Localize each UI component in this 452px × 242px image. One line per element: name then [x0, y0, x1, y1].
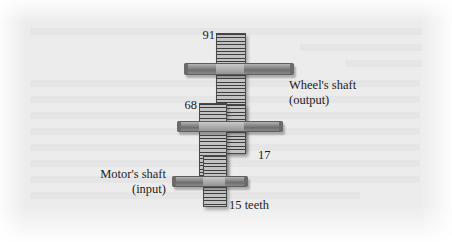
- gear-91-label: 91: [203, 28, 216, 43]
- shaft-end-cap: [177, 121, 181, 132]
- gear-68-label: 68: [185, 98, 198, 113]
- gear-15-label: 15 teeth: [229, 198, 269, 213]
- shaft-end-cap: [172, 176, 176, 187]
- shaft-end-cap: [290, 63, 294, 75]
- page-bleed-line: [345, 60, 422, 67]
- motor-input-shaft-label-line1: Motor's shaft: [100, 167, 166, 182]
- gear-91-hub: [216, 63, 244, 75]
- shaft-end-cap: [184, 63, 188, 75]
- shaft-end-cap: [244, 176, 248, 187]
- gear-15-hub: [203, 176, 225, 187]
- gear-17-hub: [216, 121, 244, 132]
- wheel-output-shaft-label-line1: Wheel's shaft: [289, 78, 356, 93]
- shaft-end-cap: [279, 121, 283, 132]
- page-bleed-line: [30, 192, 360, 199]
- page-bleed-line: [300, 44, 422, 51]
- figure-canvas: 91 68 17 15 teeth Wheel's shaft (output)…: [0, 0, 452, 242]
- gear-17-label: 17: [258, 148, 271, 163]
- wheel-output-shaft-label-line2: (output): [289, 93, 329, 108]
- motor-input-shaft-label-line2: (input): [132, 182, 166, 197]
